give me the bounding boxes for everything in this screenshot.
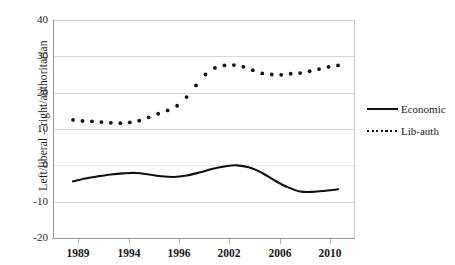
legend-label-lib-auth: Lib-auth bbox=[398, 125, 439, 137]
x-tick-mark bbox=[280, 239, 281, 244]
y-tick-label: 20 bbox=[7, 87, 53, 98]
x-tick-mark bbox=[129, 239, 130, 244]
y-tick-label: 10 bbox=[7, 123, 53, 134]
legend-swatch-solid-line-icon bbox=[367, 103, 398, 115]
x-tick-mark bbox=[229, 239, 230, 244]
y-tick-label: 0 bbox=[7, 159, 53, 170]
y-tick-label: 40 bbox=[7, 14, 53, 25]
x-tick-mark bbox=[330, 239, 331, 244]
x-tick-mark bbox=[78, 239, 79, 244]
chart-legend: Economic Lib-auth bbox=[367, 98, 455, 142]
x-tick-label: 2010 bbox=[300, 246, 360, 260]
legend-swatch-dotted-line-icon bbox=[367, 125, 398, 137]
legend-item-lib-auth[interactable]: Lib-auth bbox=[367, 120, 455, 142]
plot-area bbox=[53, 20, 355, 238]
y-tick-label: 30 bbox=[7, 50, 53, 61]
chart-figure: Left/liberal – right/authoritarian 40302… bbox=[0, 0, 455, 265]
x-axis-line bbox=[53, 238, 355, 239]
legend-item-economic[interactable]: Economic bbox=[367, 98, 455, 120]
x-tick-mark bbox=[179, 239, 180, 244]
y-tick-label: -20 bbox=[7, 232, 53, 243]
legend-label-economic: Economic bbox=[398, 103, 446, 115]
y-tick-label: -10 bbox=[7, 196, 53, 207]
